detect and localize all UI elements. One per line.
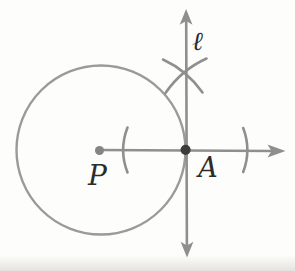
point-p-dot [95, 146, 104, 155]
label-center-p: P [87, 159, 108, 192]
geometry-figure: P A ℓ [0, 0, 295, 271]
tangent-construction-svg: P A ℓ [0, 0, 295, 271]
label-tangent-point-a: A [195, 152, 218, 183]
tangent-line-l [186, 21, 187, 247]
point-a-dot [181, 145, 191, 155]
label-line-l: ℓ [192, 26, 203, 56]
